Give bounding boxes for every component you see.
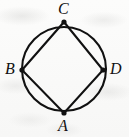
vertex-label-c: C <box>58 1 69 17</box>
vertex-label-b: B <box>5 61 15 77</box>
vertex-label-d: D <box>110 61 122 77</box>
vertex-label-a: A <box>58 118 68 134</box>
vertex-dot-b <box>19 67 24 72</box>
vertex-dot-d <box>100 67 105 72</box>
circumscribed-circle <box>22 27 106 111</box>
geometry-figure: C B D A <box>0 0 129 137</box>
vertex-dot-c <box>61 19 66 24</box>
vertex-dot-a <box>61 110 66 115</box>
